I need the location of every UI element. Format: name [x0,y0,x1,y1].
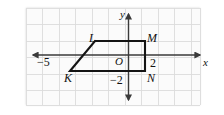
polygon-klmn [70,41,145,71]
vertex-label-k: K [64,72,72,84]
figure-root: L M K N y x O −5 2 −2 [0,0,224,115]
y-axis-label: y [120,9,125,20]
x-tick-label-2: 2 [150,57,156,69]
vertex-label-n: N [147,72,155,84]
plot-layer [0,0,224,115]
vertex-label-m: M [147,32,157,44]
x-tick-label-minus5: −5 [37,56,50,68]
y-tick-label-minus2: −2 [110,74,123,86]
x-axis-label: x [203,57,208,68]
vertex-label-l: L [89,32,96,44]
origin-label: O [115,56,123,67]
